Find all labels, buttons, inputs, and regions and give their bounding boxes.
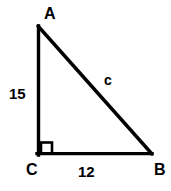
side-length-label-cb: 12	[78, 164, 95, 179]
vertex-label-a: A	[44, 6, 56, 22]
vertex-label-b: B	[154, 162, 166, 178]
vertex-label-c: C	[26, 162, 38, 178]
side-length-label-ab: c	[104, 73, 112, 87]
right-triangle-figure: A B C 15 12 c	[0, 0, 171, 191]
side-length-label-ac: 15	[9, 86, 26, 101]
